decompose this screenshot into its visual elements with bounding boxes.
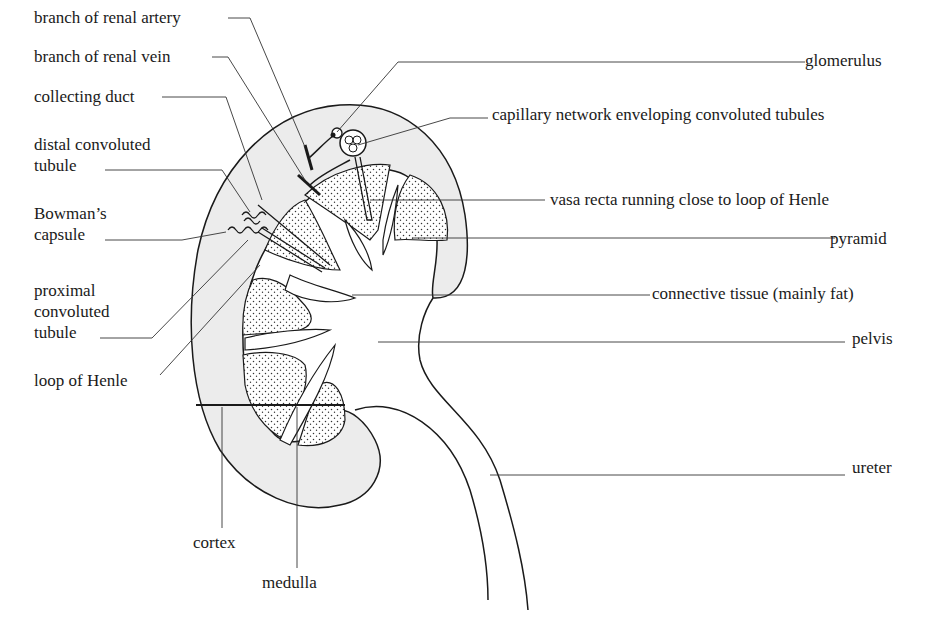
label-branch-renal-vein: branch of renal vein: [34, 46, 170, 67]
ureter-inner-curve: [355, 407, 488, 600]
label-glomerulus: glomerulus: [805, 50, 882, 71]
label-branch-renal-artery: branch of renal artery: [34, 7, 181, 28]
label-connective-tissue: connective tissue (mainly fat): [652, 283, 854, 304]
kidney-cortex: [191, 105, 467, 508]
label-collecting-duct: collecting duct: [34, 86, 135, 107]
label-vasa-recta: vasa recta running close to loop of Henl…: [550, 189, 829, 210]
label-cortex: cortex: [193, 532, 235, 553]
pelvis-outline-outer: [419, 298, 528, 610]
label-bowmans-capsule: Bowman’s capsule: [34, 203, 107, 245]
label-loop-of-henle: loop of Henle: [34, 370, 127, 391]
label-ureter: ureter: [852, 457, 892, 478]
label-capillary-network: capillary network enveloping convoluted …: [492, 104, 824, 125]
label-pyramid: pyramid: [830, 228, 887, 249]
label-proximal-convoluted-tubule: proximal convoluted tubule: [34, 280, 110, 343]
label-pelvis: pelvis: [852, 328, 893, 349]
label-distal-convoluted-tubule: distal convoluted tubule: [34, 134, 151, 176]
label-medulla: medulla: [262, 572, 317, 593]
kidney-diagram: [0, 0, 931, 620]
